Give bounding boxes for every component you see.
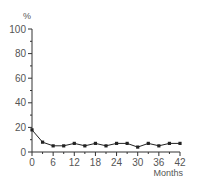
y-tick-label: 60 <box>15 73 27 84</box>
data-point-marker <box>94 142 97 145</box>
x-axis: 06121824303642 <box>29 152 186 168</box>
x-tick-label: 18 <box>90 157 102 168</box>
y-tick-label: 80 <box>15 48 27 59</box>
line-chart: 020406080100 06121824303642 % Months <box>0 0 199 189</box>
data-point-marker <box>62 144 65 147</box>
plot-area <box>30 128 181 148</box>
x-tick-label: 0 <box>29 157 35 168</box>
data-point-marker <box>157 144 160 147</box>
data-point-marker <box>147 142 150 145</box>
y-tick-label: 20 <box>15 122 27 133</box>
data-point-marker <box>30 128 33 131</box>
x-axis-title: Months <box>153 168 183 178</box>
data-point-marker <box>168 142 171 145</box>
data-point-marker <box>115 142 118 145</box>
x-tick-label: 30 <box>132 157 144 168</box>
data-point-marker <box>104 144 107 147</box>
data-point-marker <box>126 142 129 145</box>
y-tick-label: 40 <box>15 97 27 108</box>
x-tick-label: 6 <box>50 157 56 168</box>
y-tick-label: 100 <box>9 24 26 35</box>
x-tick-label: 36 <box>153 157 165 168</box>
y-tick-label: 0 <box>20 147 26 158</box>
data-point-marker <box>83 144 86 147</box>
data-point-marker <box>41 141 44 144</box>
data-point-marker <box>52 144 55 147</box>
x-tick-label: 42 <box>174 157 186 168</box>
data-point-marker <box>178 142 181 145</box>
x-tick-label: 12 <box>69 157 81 168</box>
y-axis: 020406080100 <box>9 24 32 158</box>
x-tick-label: 24 <box>111 157 123 168</box>
data-point-marker <box>136 145 139 148</box>
y-axis-title: % <box>23 11 31 21</box>
data-point-marker <box>73 142 76 145</box>
